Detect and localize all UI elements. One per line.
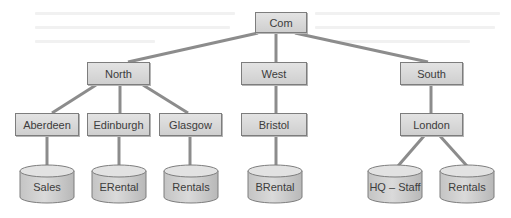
node-site-glasgow: Glasgow bbox=[159, 113, 222, 136]
node-site-aberdeen: Aberdeen bbox=[15, 113, 79, 136]
node-label: West bbox=[262, 68, 287, 80]
database-label: Rentals bbox=[439, 181, 495, 193]
node-label: Edinburgh bbox=[93, 119, 143, 131]
database-sales: Sales bbox=[19, 164, 75, 204]
node-region-south: South bbox=[400, 62, 463, 85]
node-label: Glasgow bbox=[169, 119, 212, 131]
database-rentals-glasgow: Rentals bbox=[163, 164, 219, 204]
node-site-london: London bbox=[400, 113, 463, 136]
node-label: North bbox=[105, 68, 132, 80]
node-region-west: West bbox=[241, 62, 307, 85]
node-region-north: North bbox=[87, 62, 150, 85]
database-label: BRental bbox=[247, 181, 303, 193]
node-label: Bristol bbox=[259, 119, 290, 131]
database-label: ERental bbox=[91, 181, 147, 193]
node-site-bristol: Bristol bbox=[241, 113, 307, 136]
hierarchy-diagram: Com North West South Aberdeen Edinburgh … bbox=[0, 0, 511, 218]
node-label: Aberdeen bbox=[23, 119, 71, 131]
node-label: South bbox=[417, 68, 446, 80]
database-label: Rentals bbox=[163, 181, 219, 193]
database-erental: ERental bbox=[91, 164, 147, 204]
database-brental: BRental bbox=[247, 164, 303, 204]
database-hq-staff: HQ – Staff bbox=[367, 164, 423, 204]
node-root: Com bbox=[255, 12, 307, 33]
database-label: Sales bbox=[19, 181, 75, 193]
database-label: HQ – Staff bbox=[367, 181, 423, 193]
database-rentals-london: Rentals bbox=[439, 164, 495, 204]
node-label: London bbox=[413, 119, 450, 131]
node-site-edinburgh: Edinburgh bbox=[87, 113, 150, 136]
node-label: Com bbox=[269, 17, 292, 29]
